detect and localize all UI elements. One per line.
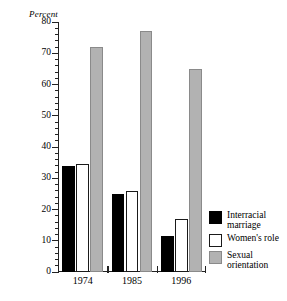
legend-item[interactable]: Interracial marriage	[209, 210, 287, 230]
y-axis-tick-label: 10	[42, 236, 52, 246]
bar-sexual-orientation-1985	[140, 31, 153, 272]
x-axis-tick-label-1985: 1985	[122, 275, 142, 286]
bar-womens-role-1974	[76, 164, 89, 272]
legend-item[interactable]: Sexual orientation	[209, 250, 287, 270]
bar-sexual-orientation-1996	[189, 69, 202, 272]
y-axis-tick-label: 80	[42, 17, 52, 27]
legend-swatch-black	[209, 211, 222, 224]
legend-label: Women's role	[227, 233, 279, 243]
bar-chart: Percent 01020304050607080 197419851996 I…	[0, 0, 287, 301]
y-axis-tick-label: 40	[42, 142, 52, 152]
y-axis-tick-label: 0	[46, 267, 51, 277]
bar-interracial-marriage-1974	[62, 166, 75, 272]
y-axis-tick-label: 70	[42, 48, 52, 58]
x-axis-tick-label-1996: 1996	[171, 275, 191, 286]
legend-swatch-gray	[209, 251, 222, 264]
bar-interracial-marriage-1985	[112, 194, 125, 272]
legend: Interracial marriageWomen's roleSexual o…	[209, 210, 287, 273]
bar-sexual-orientation-1974	[90, 47, 103, 272]
x-axis-tick-label-1974: 1974	[73, 275, 93, 286]
y-axis-tick-label: 60	[42, 80, 52, 90]
y-axis-tick-label: 30	[42, 173, 52, 183]
y-axis-tick-label: 20	[42, 205, 52, 215]
bar-womens-role-1996	[175, 219, 188, 272]
legend-swatch-white	[209, 234, 222, 247]
legend-item[interactable]: Women's role	[209, 233, 287, 247]
bar-womens-role-1985	[126, 191, 139, 272]
y-axis-tick-label: 50	[42, 111, 52, 121]
bar-interracial-marriage-1996	[161, 236, 174, 272]
legend-label: Sexual orientation	[227, 250, 268, 270]
bars-layer	[58, 22, 206, 272]
legend-label: Interracial marriage	[227, 210, 266, 230]
